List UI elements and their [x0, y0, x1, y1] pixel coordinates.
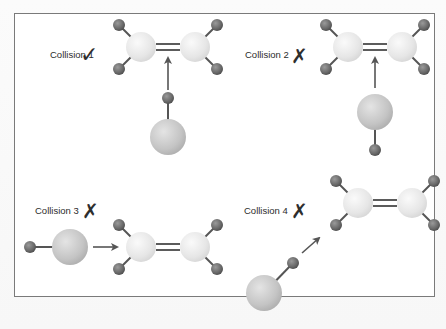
- collision-4-hx-halogen-atom: [246, 275, 282, 311]
- collision-3-ethene-hydrogen-atom: [211, 219, 223, 231]
- collision-1-ethene-hydrogen-atom: [211, 19, 223, 31]
- collision-3-group: Collision 3 ✗: [24, 199, 223, 275]
- collision-2-ethene-carbon-atom: [333, 32, 363, 62]
- collision-2-group: Collision 2 ✗: [245, 19, 430, 156]
- collision-3-ethene-hydrogen-atom: [211, 263, 223, 275]
- collision-1-ethene-carbon-atom: [126, 32, 156, 62]
- collision-1-ethene-hydrogen-atom: [113, 63, 125, 75]
- collision-4-hx-hydrogen-atom: [287, 257, 299, 269]
- collision-4-ethene-hydrogen-atom: [330, 219, 342, 231]
- collision-3-ethene-hydrogen-atom: [113, 263, 125, 275]
- collision-4-ethene-hydrogen-atom: [428, 219, 440, 231]
- collision-3-ethene-hydrogen-atom: [113, 219, 125, 231]
- collision-2-ethene-hydrogen-atom: [320, 19, 332, 31]
- collision-3-hx-hydrogen-atom: [24, 241, 36, 253]
- collision-2-ethene-hydrogen-atom: [320, 63, 332, 75]
- collision-2-ethene-carbon-atom: [387, 32, 417, 62]
- collision-1-ethene-hydrogen-atom: [211, 63, 223, 75]
- collision-4-cross-icon: ✗: [291, 199, 308, 223]
- collision-4-ethene-carbon-atom: [397, 188, 427, 218]
- collision-2-label: Collision 2: [245, 49, 289, 60]
- collision-1-ethene-carbon-atom: [180, 32, 210, 62]
- collision-2-cross-icon: ✗: [291, 44, 308, 68]
- collision-4-ethene-hydrogen-atom: [428, 175, 440, 187]
- collision-2-ethene-hydrogen-atom: [418, 19, 430, 31]
- collision-4-group: Collision 4 ✗: [244, 175, 440, 311]
- collision-1-checkmark-icon: ✓: [80, 42, 98, 67]
- collision-4-ethene-hydrogen-atom: [330, 175, 342, 187]
- collision-3-hx-halogen-atom: [52, 229, 88, 265]
- collision-3-cross-icon: ✗: [82, 199, 99, 223]
- collision-1-ethene-hydrogen-atom: [113, 19, 125, 31]
- collision-diagram: Collision 1 ✓ Collision 2 ✗ Collision 3 …: [0, 0, 446, 329]
- collision-3-ethene-carbon-atom: [180, 232, 210, 262]
- collision-3-ethene-carbon-atom: [126, 232, 156, 262]
- collision-4-ethene-carbon-atom: [343, 188, 373, 218]
- collision-2-ethene-hydrogen-atom: [418, 63, 430, 75]
- collision-4-approach-arrow: [302, 238, 319, 253]
- collision-2-hx-hydrogen-atom: [369, 144, 381, 156]
- collision-1-hx-hydrogen-atom: [162, 92, 174, 104]
- collision-1-group: Collision 1 ✓: [50, 19, 223, 155]
- collision-2-hx-halogen-atom: [357, 94, 393, 130]
- collision-1-hx-halogen-atom: [150, 119, 186, 155]
- collision-3-label: Collision 3: [35, 205, 79, 216]
- collision-4-label: Collision 4: [244, 205, 288, 216]
